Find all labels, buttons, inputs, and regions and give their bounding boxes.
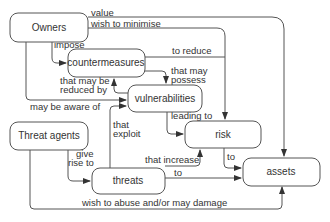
node-countermeasures-label: countermeasures xyxy=(67,57,144,68)
node-assets: assets xyxy=(243,158,320,186)
edge-label-may-be-aware-of: may be aware of xyxy=(30,101,101,112)
node-assets-label: assets xyxy=(267,166,296,177)
edge-label-rise-to: rise to xyxy=(68,157,94,168)
security-concepts-diagram: value wish to minimise impose to reduce … xyxy=(0,0,330,222)
node-owners: Owners xyxy=(10,13,88,42)
node-threats-label: threats xyxy=(113,175,144,186)
node-vulnerabilities-label: vulnerabilities xyxy=(135,93,196,104)
edge-label-to-reduce: to reduce xyxy=(172,45,212,56)
edge-label-exploit: exploit xyxy=(113,128,141,139)
edge-reduced-by xyxy=(114,79,128,93)
edge-label-wish-to-minimise: wish to minimise xyxy=(90,18,161,29)
node-threat-agents-label: Threat agents xyxy=(18,130,80,141)
edge-label-threats-to: to xyxy=(174,167,182,178)
edge-label-value: value xyxy=(91,7,114,18)
node-countermeasures: countermeasures xyxy=(67,49,145,77)
edge-label-risk-to: to xyxy=(227,151,235,162)
node-threats: threats xyxy=(92,168,165,194)
node-risk: risk xyxy=(185,121,261,148)
node-owners-label: Owners xyxy=(32,22,66,33)
edge-label-reduced-by: reduced by xyxy=(60,84,107,95)
node-threat-agents: Threat agents xyxy=(10,122,88,150)
edge-label-wish-to-abuse: wish to abuse and/or may damage xyxy=(81,197,227,208)
edge-label-possess: possess xyxy=(171,74,206,85)
node-vulnerabilities: vulnerabilities xyxy=(128,85,202,112)
node-risk-label: risk xyxy=(215,129,232,140)
edge-label-that-increase: that increase xyxy=(145,154,199,165)
